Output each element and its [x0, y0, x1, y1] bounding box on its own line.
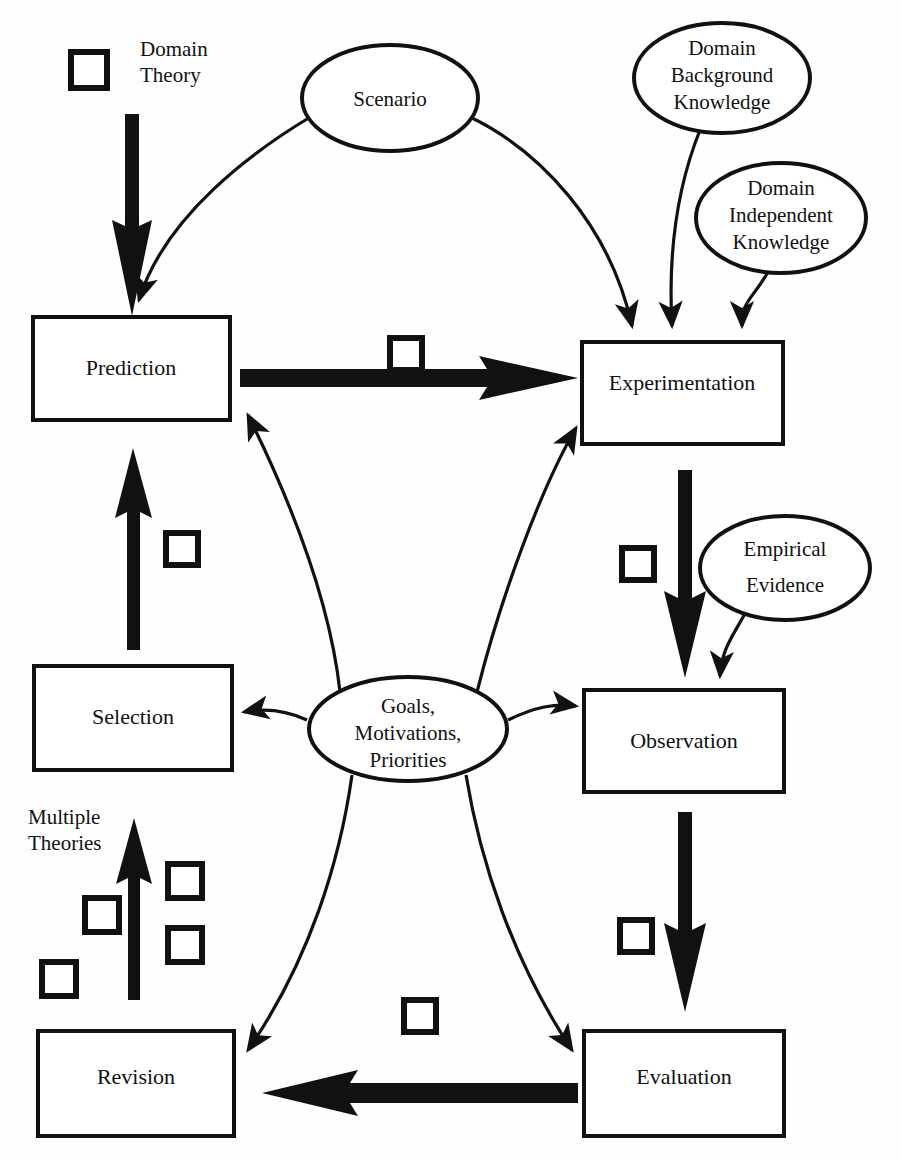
node-domain-background-knowledge[interactable]: Domain Background Knowledge: [634, 23, 810, 133]
link-scenario-to-experimentation: [468, 116, 632, 326]
dbk-label-line-0: Domain: [688, 36, 756, 60]
dbk-label-line-1: Background: [671, 63, 774, 87]
revision-label: Revision: [97, 1064, 175, 1089]
link-goals-to-selection: [244, 710, 307, 720]
node-revision[interactable]: Revision: [38, 1031, 234, 1136]
link-dik-to-experimentation: [742, 272, 768, 326]
evidence-label-line-0: Empirical: [744, 537, 827, 561]
node-selection[interactable]: Selection: [34, 666, 232, 770]
observation-label: Observation: [630, 728, 738, 753]
evidence-label-line-1: Evidence: [746, 573, 824, 597]
domain-theory-marker-icon: [71, 52, 107, 88]
link-goals-to-experimentation: [477, 428, 576, 692]
link-goals-to-revision: [248, 775, 352, 1050]
arrow-observation-to-evaluation: [664, 812, 706, 1012]
arrow-domain-theory-to-prediction: [112, 114, 152, 316]
node-domain-independent-knowledge[interactable]: Domain Independent Knowledge: [696, 163, 866, 273]
label-multiple-theories: Multiple Theories: [28, 805, 101, 855]
selection-label: Selection: [92, 704, 174, 729]
theory-marker-c-icon: [168, 928, 202, 962]
empirical-evidence-ellipse[interactable]: [700, 516, 870, 620]
link-goals-to-prediction: [248, 415, 340, 692]
domain-theory-line-0: Domain: [140, 37, 208, 61]
link-goals-to-evaluation: [466, 775, 572, 1050]
evaluation-to-revision-marker-icon: [404, 1000, 436, 1032]
node-observation[interactable]: Observation: [584, 690, 784, 792]
goals-label-line-0: Goals,: [381, 694, 435, 718]
arrow-evaluation-to-revision: [262, 1070, 578, 1116]
link-goals-to-observation: [508, 705, 576, 720]
experimentation-to-obs-marker-icon: [622, 548, 654, 580]
prediction-label: Prediction: [86, 355, 176, 380]
dik-label-line-1: Independent: [729, 203, 833, 227]
experimentation-label: Experimentation: [609, 370, 756, 395]
dbk-label-line-2: Knowledge: [674, 90, 771, 114]
goals-label-line-1: Motivations,: [355, 721, 462, 745]
node-prediction[interactable]: Prediction: [33, 317, 230, 420]
theory-marker-b-icon: [85, 898, 119, 932]
link-evidence-to-observation: [720, 612, 746, 676]
selection-to-pred-marker-icon: [166, 533, 198, 565]
node-scenario[interactable]: Scenario: [302, 45, 478, 151]
theory-marker-a-icon: [168, 864, 202, 898]
diagram-canvas: Scenario Domain Background Knowledge Dom…: [0, 0, 901, 1160]
thick-arrows-layer: [112, 114, 706, 1116]
scenario-label-line-0: Scenario: [353, 87, 426, 111]
node-experimentation[interactable]: Experimentation: [582, 342, 783, 444]
evaluation-label: Evaluation: [636, 1064, 731, 1089]
node-goals-motivations-priorities[interactable]: Goals, Motivations, Priorities: [309, 677, 507, 781]
dik-label-line-2: Knowledge: [733, 230, 830, 254]
domain-theory-line-1: Theory: [140, 63, 201, 87]
node-evaluation[interactable]: Evaluation: [584, 1031, 784, 1136]
observation-to-eval-marker-icon: [620, 920, 652, 952]
label-domain-theory: Domain Theory: [140, 37, 208, 87]
dik-label-line-0: Domain: [747, 176, 815, 200]
node-empirical-evidence[interactable]: Empirical Evidence: [700, 516, 870, 620]
process-diagram: Scenario Domain Background Knowledge Dom…: [0, 0, 901, 1160]
theory-marker-d-icon: [42, 962, 76, 996]
multiple-theories-line-0: Multiple: [28, 805, 100, 829]
link-scenario-to-prediction: [139, 116, 312, 300]
multiple-theories-line-1: Theories: [28, 831, 101, 855]
goals-label-line-2: Priorities: [370, 748, 447, 772]
arrow-selection-to-prediction: [115, 448, 152, 650]
thin-links-layer: [139, 116, 768, 1050]
prediction-to-exp-marker-icon: [390, 338, 422, 370]
